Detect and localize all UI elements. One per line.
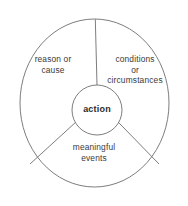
- divider-top: [95, 19, 97, 85]
- segment-label-conditions-or-circumstances: conditions or circumstances: [102, 54, 168, 86]
- segment-label-meaningful-events: meaningful events: [54, 142, 134, 163]
- segment-label-reason-or-cause: reason or cause: [22, 54, 84, 75]
- segmented-circle-diagram: reason or cause conditions or circumstan…: [0, 0, 188, 206]
- inner-circle-label-action: action: [72, 104, 122, 115]
- diagram-canvas: [0, 0, 188, 206]
